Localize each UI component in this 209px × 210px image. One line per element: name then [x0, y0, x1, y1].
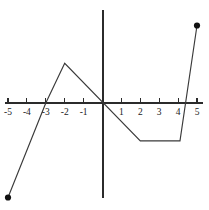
x-tick-label-4: 4	[176, 107, 181, 117]
x-tick-label-3: 3	[157, 107, 162, 117]
x-axis-tick-labels: -5-4-3-2-112345	[4, 107, 200, 117]
endpoint-dot-right	[194, 22, 200, 28]
piecewise-line-graph: -5-4-3-2-112345	[0, 0, 209, 210]
graph-figure: -5-4-3-2-112345	[0, 0, 209, 210]
x-tick-label-2: 2	[138, 107, 143, 117]
x-tick-label-neg3: -3	[42, 107, 50, 117]
x-tick-label-neg5: -5	[4, 107, 12, 117]
x-tick-label-neg2: -2	[61, 107, 69, 117]
x-tick-label-neg1: -1	[80, 107, 88, 117]
x-tick-label-neg4: -4	[23, 107, 31, 117]
x-tick-label-5: 5	[195, 107, 200, 117]
endpoint-dot-left	[5, 194, 11, 200]
x-tick-label-1: 1	[119, 107, 124, 117]
